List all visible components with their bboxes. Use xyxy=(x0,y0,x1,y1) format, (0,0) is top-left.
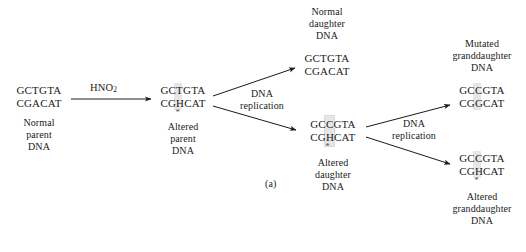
node-caption: Altered parent DNA xyxy=(152,121,214,157)
reagent-formula: HNO xyxy=(90,82,113,93)
bottom-strand: CGHCAT xyxy=(160,97,205,110)
caption-line3: DNA xyxy=(322,181,344,192)
caption-line3: DNA xyxy=(471,62,493,73)
caption-line1: Altered xyxy=(467,191,498,202)
node-caption: Altered daughter DNA xyxy=(300,157,366,193)
dna-sequence: GCCGTA CGGCAT xyxy=(459,84,505,109)
sequence-block: GCTGTA CGACAT xyxy=(304,52,349,79)
node-altered-daughter-dna: GCCGTA CGHCAT * Altered daughter DNA xyxy=(300,118,366,193)
caption-line3: DNA xyxy=(172,145,194,156)
sequence-block: GCCGTA CGHCAT * xyxy=(459,152,505,187)
dna-sequence: GCCGTA CGHCAT * xyxy=(459,152,505,183)
dna-sequence: GCTGTA CGACAT xyxy=(304,52,349,77)
process-label-dna-replication-2: DNA replication xyxy=(374,118,454,141)
process-label-line2: replication xyxy=(392,130,436,141)
caption-line2: daughter xyxy=(309,18,345,29)
caption-line2: parent xyxy=(26,129,52,140)
caption-line1: Altered xyxy=(318,157,349,168)
sequence-block: GCTGTA CGACAT xyxy=(16,84,61,111)
arrow-replication-to-altered-granddaughter xyxy=(366,137,450,164)
node-normal-parent-dna: GCTGTA CGACAT Normal parent DNA xyxy=(4,84,74,153)
node-caption: Normal parent DNA xyxy=(4,117,74,153)
mutation-asterisk: * xyxy=(175,109,205,115)
bottom-strand: CGHCAT xyxy=(310,131,356,144)
caption-line1: Normal xyxy=(311,6,342,17)
caption-line1: Normal xyxy=(23,117,54,128)
mutation-asterisk: * xyxy=(325,143,356,149)
node-caption: Altered granddaughter DNA xyxy=(440,191,524,227)
process-label-line2: replication xyxy=(240,100,284,111)
caption-line3: DNA xyxy=(28,141,50,152)
node-altered-parent-dna: GCTGTA CGHCAT * Altered parent DNA xyxy=(152,84,214,157)
top-strand: GCCGTA xyxy=(459,152,505,165)
dna-sequence: GCTGTA CGHCAT * xyxy=(160,84,205,115)
bottom-strand: CGHCAT xyxy=(459,165,505,178)
top-strand: GCTGTA xyxy=(304,52,349,65)
sequence-block: GCCGTA CGGCAT xyxy=(459,84,505,111)
node-normal-daughter-dna: Normal daughter DNA GCTGTA CGACAT xyxy=(292,6,362,79)
bottom-strand: CGGCAT xyxy=(459,97,505,110)
process-label-dna-replication-1: DNA replication xyxy=(222,88,302,111)
dna-sequence: GCCGTA CGHCAT * xyxy=(310,118,356,149)
sequence-block: GCCGTA CGHCAT * xyxy=(310,118,356,153)
caption-line3: DNA xyxy=(471,215,493,226)
caption-line3: DNA xyxy=(316,30,338,41)
top-strand: GCCGTA xyxy=(459,84,505,97)
reagent-label-hno2: HNO2 xyxy=(90,82,117,94)
reagent-formula-subscript: 2 xyxy=(113,85,117,94)
panel-label: (a) xyxy=(265,178,276,189)
node-caption: Mutated granddaughter DNA xyxy=(440,38,524,74)
sequence-block: GCTGTA CGHCAT * xyxy=(160,84,205,119)
node-caption: Normal daughter DNA xyxy=(292,6,362,42)
process-label-line1: DNA xyxy=(403,118,425,129)
bottom-strand: CGACAT xyxy=(304,65,349,78)
mutation-asterisk: * xyxy=(474,177,505,183)
caption-line1: Altered xyxy=(168,121,199,132)
node-altered-granddaughter-dna: GCCGTA CGHCAT * Altered granddaughter DN… xyxy=(440,152,524,227)
caption-line1: Mutated xyxy=(465,38,499,49)
bottom-strand: CGACAT xyxy=(16,97,61,110)
dna-sequence: GCTGTA CGACAT xyxy=(16,84,61,109)
caption-line2: parent xyxy=(170,133,196,144)
top-strand: GCCGTA xyxy=(310,118,356,131)
dna-mutation-diagram: HNO2 DNA replication DNA replication (a)… xyxy=(0,0,526,252)
process-label-line1: DNA xyxy=(251,88,273,99)
top-strand: GCTGTA xyxy=(160,84,205,97)
top-strand: GCTGTA xyxy=(16,84,61,97)
caption-line2: granddaughter xyxy=(452,50,511,61)
caption-line2: granddaughter xyxy=(452,203,511,214)
caption-line2: daughter xyxy=(315,169,351,180)
node-mutated-granddaughter-dna: Mutated granddaughter DNA GCCGTA CGGCAT xyxy=(440,38,524,111)
